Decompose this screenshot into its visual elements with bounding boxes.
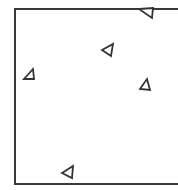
triangle-icon <box>24 69 34 79</box>
markers-layer <box>0 0 178 190</box>
triangle-icon <box>102 44 113 56</box>
triangle-icon <box>62 166 73 178</box>
triangle-icon <box>139 8 153 18</box>
triangle-icon <box>140 79 150 90</box>
